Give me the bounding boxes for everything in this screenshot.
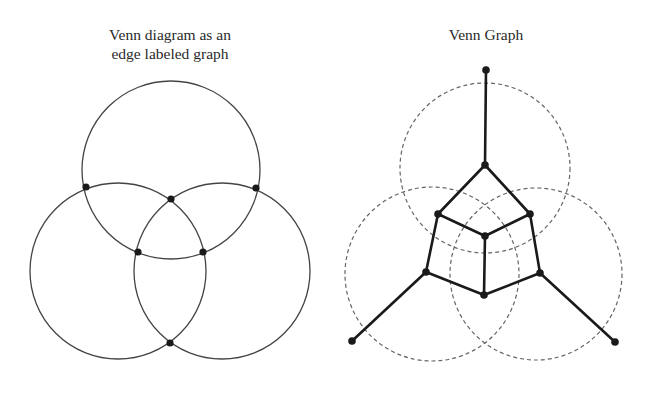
- graph-node: [166, 339, 173, 346]
- graph-node: [167, 195, 174, 202]
- venn-circle: [134, 183, 310, 359]
- graph-node: [536, 269, 544, 277]
- graph-edge: [485, 214, 530, 236]
- graph-edge: [530, 214, 540, 273]
- graph-edge: [438, 214, 485, 236]
- graph-node: [434, 210, 442, 218]
- graph-node: [252, 184, 259, 191]
- graph-node: [480, 291, 488, 299]
- graph-edge: [485, 70, 486, 165]
- graph-edge: [426, 214, 438, 272]
- graph-node: [482, 66, 490, 74]
- graph-edge: [484, 236, 485, 295]
- venn-circle: [30, 183, 206, 359]
- venn-edge-labeled-graph: [30, 81, 310, 359]
- graph-node: [134, 248, 141, 255]
- graph-node: [481, 161, 489, 169]
- graph-edge: [540, 273, 615, 342]
- graph-node: [199, 248, 206, 255]
- venn-graph: [345, 66, 622, 361]
- graph-edge: [438, 165, 485, 214]
- graph-node: [422, 268, 430, 276]
- graph-edge: [426, 272, 484, 295]
- graph-edge: [352, 272, 426, 341]
- graph-node: [611, 338, 619, 346]
- diagram-canvas: [0, 0, 653, 394]
- graph-node: [82, 183, 89, 190]
- graph-node: [526, 210, 534, 218]
- graph-edge: [485, 165, 530, 214]
- graph-edge: [484, 273, 540, 295]
- graph-node: [348, 337, 356, 345]
- venn-circle: [82, 81, 260, 259]
- graph-node: [481, 232, 489, 240]
